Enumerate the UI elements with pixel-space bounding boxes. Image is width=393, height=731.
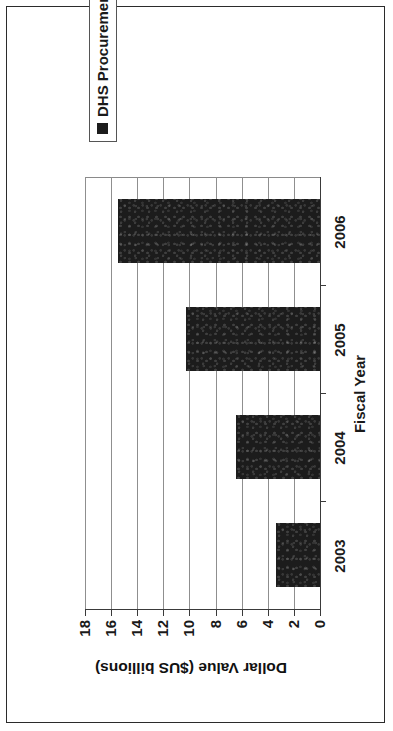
scanned-page-frame: 024681012141618 2003200420052006 Fiscal … [6,6,385,723]
bar [276,523,320,588]
value-axis-tick-label: 18 [76,620,93,664]
category-axis-tick-label: 2006 [331,197,348,267]
category-axis-tick-mark [320,501,326,502]
plot-right-border [85,177,320,178]
gridline [111,177,112,609]
value-axis-tick-label: 8 [207,620,224,664]
legend-label: DHS Procurements [95,0,110,117]
legend-swatch-icon [97,123,108,134]
x-axis-title: Fiscal Year [351,178,368,610]
category-axis-tick-mark [320,285,326,286]
value-axis-tick-label: 12 [154,620,171,664]
category-axis-tick-label: 2003 [331,521,348,591]
value-axis-tick-mark [294,610,295,616]
value-axis-tick-mark [216,610,217,616]
value-axis-tick-mark [137,610,138,616]
value-axis-tick-label: 16 [102,620,119,664]
rotated-chart-wrapper: 024681012141618 2003200420052006 Fiscal … [7,7,393,731]
value-axis-tick-mark [189,610,190,616]
value-axis-tick-label: 4 [259,620,276,664]
value-axis-tick-mark [111,610,112,616]
bar [118,199,320,264]
value-axis-tick-mark [268,610,269,616]
value-axis-tick-mark [163,610,164,616]
value-axis-tick-label: 14 [128,620,145,664]
category-axis-tick-mark [320,393,326,394]
y-axis-title: Dollar Value ($US billions) [61,659,321,677]
category-axis-tick-label: 2004 [331,413,348,483]
value-axis-tick-label: 0 [311,620,328,664]
bar-chart: 024681012141618 2003200420052006 Fiscal … [7,7,393,731]
value-axis-tick-label: 2 [285,620,302,664]
plot-area [85,177,321,610]
value-axis-tick-mark [85,610,86,616]
value-axis-tick-label: 6 [233,620,250,664]
value-axis-tick-mark [320,610,321,616]
gridline [85,177,86,609]
value-axis-tick-label: 10 [180,620,197,664]
category-axis-tick-label: 2005 [331,305,348,375]
bar [236,415,320,480]
value-axis-tick-mark [242,610,243,616]
chart-legend: DHS Procurements [89,0,117,142]
bar [186,307,320,372]
